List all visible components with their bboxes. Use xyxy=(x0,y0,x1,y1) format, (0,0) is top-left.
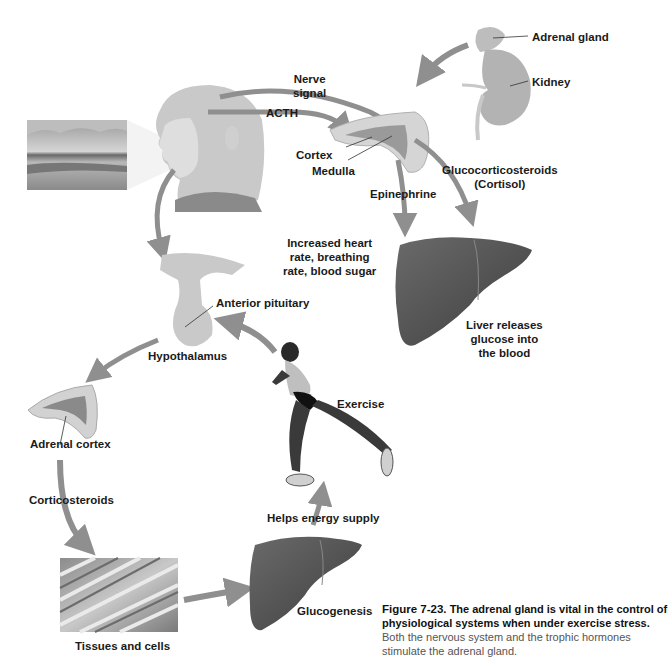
landscape-image xyxy=(27,120,170,190)
label-glucocorticosteroids-line2: (Cortisol) xyxy=(442,177,558,191)
label-glucocorticosteroids-line1: Glucocorticosteroids xyxy=(442,163,558,177)
caption-body-text: Both the nervous system and the trophic … xyxy=(382,631,631,657)
tissues-and-cells-image xyxy=(60,558,178,632)
label-medulla: Medulla xyxy=(312,164,355,178)
label-anterior-pituitary: Anterior pituitary xyxy=(216,296,309,310)
label-increased-heart-rate: Increased heart rate, breathing rate, bl… xyxy=(283,236,376,278)
label-epinephrine: Epinephrine xyxy=(370,187,436,201)
label-cortex: Cortex xyxy=(296,148,332,162)
brain-to-pituitary-arrow xyxy=(157,170,174,250)
woman-head-illustration xyxy=(156,85,264,212)
label-helps-energy-supply: Helps energy supply xyxy=(267,511,379,525)
kidney-to-adrenal-arrow xyxy=(425,45,468,75)
label-corticosteroids: Corticosteroids xyxy=(29,493,114,507)
label-acth: ACTH xyxy=(266,106,298,120)
exercise-to-pituitary-arrow xyxy=(228,322,275,352)
diagram-artwork xyxy=(0,0,670,668)
tissues-to-liver-arrow xyxy=(184,590,240,600)
label-exercise: Exercise xyxy=(337,397,384,411)
label-nerve-signal-line2: signal xyxy=(293,86,326,100)
label-liver-releases-line1: Liver releases xyxy=(466,318,543,332)
label-glucocorticosteroids: Glucocorticosteroids (Cortisol) xyxy=(442,163,558,191)
label-increased-line2: rate, breathing xyxy=(283,250,376,264)
adrenal-stress-diagram: Adrenal gland Kidney Nerve signal ACTH C… xyxy=(0,0,670,668)
caption-figure-number: Figure 7-23. xyxy=(382,603,447,615)
label-tissues-and-cells: Tissues and cells xyxy=(75,639,170,653)
label-liver-releases-glucose: Liver releases glucose into the blood xyxy=(466,318,543,360)
label-adrenal-cortex: Adrenal cortex xyxy=(30,437,111,451)
label-liver-releases-line2: glucose into xyxy=(466,332,543,346)
label-adrenal-gland: Adrenal gland xyxy=(532,30,609,44)
label-liver-releases-line3: the blood xyxy=(466,346,543,360)
label-hypothalamus: Hypothalamus xyxy=(148,349,227,363)
runner-image xyxy=(272,342,393,486)
label-increased-line1: Increased heart xyxy=(283,236,376,250)
label-kidney: Kidney xyxy=(532,75,570,89)
figure-caption: Figure 7-23. The adrenal gland is vital … xyxy=(382,602,670,658)
label-glucogenesis: Glucogenesis xyxy=(297,604,372,618)
label-increased-line3: rate, blood sugar xyxy=(283,264,376,278)
label-nerve-signal: Nerve signal xyxy=(293,72,326,100)
label-nerve-signal-line1: Nerve xyxy=(293,72,326,86)
